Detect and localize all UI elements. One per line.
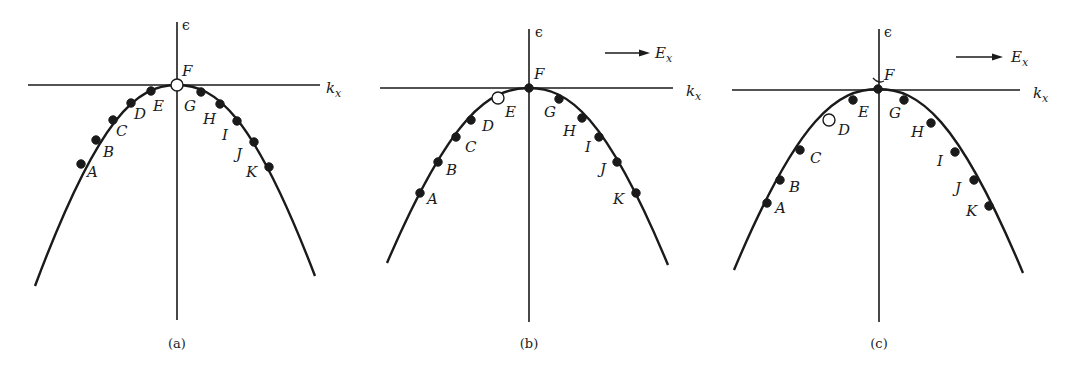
state-label-d: D (481, 117, 494, 135)
electron-state-c (452, 133, 460, 141)
electron-state-k (632, 189, 640, 197)
electron-state-h (578, 114, 586, 122)
state-label-a: A (85, 163, 98, 181)
state-label-d: D (133, 105, 146, 123)
state-label-d: D (837, 121, 850, 139)
kx-axis-label: kx (686, 82, 702, 103)
electron-state-g (555, 95, 563, 103)
kx-axis-label: kx (1033, 84, 1049, 105)
panel-caption: (a) (168, 336, 186, 351)
electron-state-k (265, 163, 273, 171)
electron-state-f (525, 84, 533, 92)
hole-state-d (823, 114, 835, 126)
state-label-a: A (425, 190, 438, 208)
state-label-f: F (883, 66, 895, 84)
electron-state-i (233, 117, 241, 125)
electron-state-a (77, 160, 85, 168)
state-label-k: K (965, 202, 978, 220)
electron-state-i (595, 133, 603, 141)
state-label-k: K (245, 163, 258, 181)
electron-state-a (763, 199, 771, 207)
electron-state-h (927, 119, 935, 127)
state-label-b: B (102, 143, 114, 161)
state-label-c: C (465, 138, 477, 156)
electron-state-h (216, 100, 224, 108)
state-label-e: E (857, 103, 869, 121)
energy-axis-label: ϵ (884, 24, 892, 40)
state-label-h: H (562, 122, 577, 140)
state-label-c: C (116, 122, 128, 140)
state-label-g: G (544, 103, 556, 121)
electron-state-j (613, 158, 621, 166)
electron-state-a (416, 189, 424, 197)
state-label-b: B (788, 178, 800, 196)
electron-state-g (900, 96, 908, 104)
state-label-c: C (810, 149, 822, 167)
state-label-i: I (584, 138, 592, 156)
band-diagram-figure: kxϵABCDEFGHIJK(a) kxϵExABCDEFGHIJK(b) kx… (0, 0, 1069, 369)
state-label-j: J (233, 145, 243, 163)
state-label-f: F (181, 62, 193, 80)
arrow-right-icon (992, 54, 1003, 61)
state-label-j: J (952, 179, 962, 197)
electron-state-k (985, 202, 993, 210)
electron-state-j (970, 176, 978, 184)
state-label-i: I (221, 126, 229, 144)
state-label-g: G (184, 97, 196, 115)
state-label-k: K (612, 190, 625, 208)
electron-state-e (849, 96, 857, 104)
energy-axis-label: ϵ (182, 17, 190, 33)
panel-caption: (b) (520, 336, 538, 351)
state-label-h: H (910, 123, 925, 141)
electron-state-c (796, 146, 804, 154)
state-label-a: A (773, 199, 786, 217)
electron-state-b (92, 136, 100, 144)
state-label-j: J (597, 160, 607, 178)
band-diagram-svg: kxϵABCDEFGHIJK(a) kxϵExABCDEFGHIJK(b) kx… (0, 0, 1069, 369)
panel-b: kxϵExABCDEFGHIJK(b) (380, 24, 702, 351)
electron-state-b (434, 158, 442, 166)
band-curve (387, 88, 668, 265)
electric-field-label: Ex (654, 44, 673, 65)
electron-state-i (951, 148, 959, 156)
electric-field-label: Ex (1010, 48, 1029, 69)
hole-state-e (492, 92, 504, 104)
state-label-e: E (152, 97, 164, 115)
electron-state-g (197, 88, 205, 96)
state-label-h: H (202, 110, 217, 128)
electron-state-b (776, 176, 784, 184)
state-label-i: I (936, 152, 944, 170)
electron-state-e (147, 87, 155, 95)
panel-a: kxϵABCDEFGHIJK(a) (28, 17, 342, 351)
hole-state-f (171, 79, 183, 91)
arrow-right-icon (639, 50, 650, 57)
state-label-e: E (504, 103, 516, 121)
electron-state-f (874, 85, 882, 93)
panel-c: kxϵExABCDEFGHIJK(c) (732, 24, 1049, 351)
kx-axis-label: kx (326, 79, 342, 100)
band-curve (35, 85, 315, 286)
energy-axis-label: ϵ (535, 24, 543, 40)
state-label-f: F (533, 65, 545, 83)
panel-caption: (c) (870, 336, 887, 351)
state-label-b: B (445, 161, 457, 179)
electron-state-d (467, 116, 475, 124)
electron-state-j (250, 138, 258, 146)
state-label-g: G (889, 104, 901, 122)
